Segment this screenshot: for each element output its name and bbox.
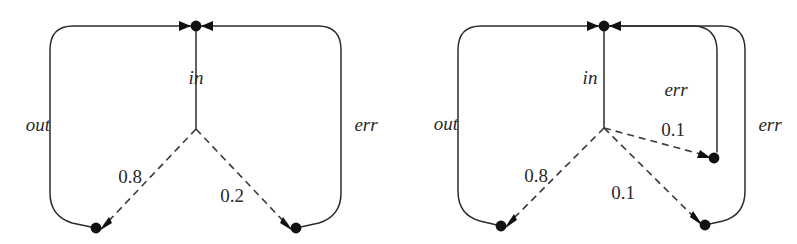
right-prob-err-inner: 0.1 [661,119,685,140]
left-err-node [291,223,302,234]
right-out-label: out [434,113,459,134]
left-in-label: in [189,67,204,88]
right-branch-err-inner-dashed [604,128,704,155]
right-prob-out: 0.8 [524,165,548,186]
left-diagram: in out err 0.8 0.2 [26,21,378,234]
left-top-arrowhead-from-left [179,21,191,31]
right-err-inner-node [709,153,720,164]
left-err-solid-edge [196,26,341,228]
right-in-node [599,21,610,32]
left-out-label: out [26,114,51,135]
diagram-canvas: in out err 0.8 0.2 [0,0,797,244]
left-branch-err-dashed [196,129,288,226]
right-diagram: in out err err 0.8 0.1 0.1 [434,21,782,232]
right-err-inner-label: err [664,79,688,100]
right-prob-err-outer: 0.1 [611,182,635,203]
left-out-node [91,223,102,234]
left-out-solid-edge [50,26,196,228]
right-branch-err-outer-dashed [604,128,697,220]
right-top-arrowhead-from-right [609,21,621,31]
left-prob-out: 0.8 [118,166,142,187]
left-in-node [191,21,202,32]
right-err-outer-label: err [758,114,782,135]
right-out-solid-edge [458,26,604,226]
right-err-outer-node [700,220,711,231]
right-in-label: in [583,67,598,88]
left-prob-err: 0.2 [220,185,244,206]
left-top-arrowhead-from-right [201,21,213,31]
left-err-label: err [354,114,378,135]
figure-root: in out err 0.8 0.2 [0,0,797,244]
right-top-arrowhead-from-left [587,21,599,31]
right-out-node [496,221,507,232]
